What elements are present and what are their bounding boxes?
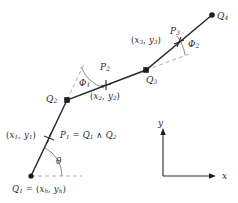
- vertex-marker-q2: [64, 97, 70, 103]
- vertex-marker-q1: [28, 173, 33, 178]
- axis-x-arrowhead: [209, 173, 216, 178]
- label-theta: θ: [56, 157, 62, 166]
- label-q1-equation: Q1 = (xh, yh): [12, 185, 66, 195]
- label-q4: Q4: [217, 12, 228, 21]
- midpoint-tick-p2: [101, 80, 111, 90]
- label-coord-xy1: (x1, y1): [6, 131, 36, 141]
- midpoint-tick-p1: [44, 133, 54, 143]
- vertex-marker-q4: [209, 12, 215, 18]
- geometry-diagram: Q4 P3 (x3, y3) Φ2 P2 Q3 Φ1 Q2 (x2, y2) (…: [0, 0, 238, 203]
- label-phi1: Φ1: [79, 79, 90, 88]
- axis-label-y: y: [158, 119, 163, 128]
- label-p2: P2: [100, 63, 110, 72]
- axis-indicator: [160, 128, 216, 179]
- axis-y-arrowhead: [160, 128, 165, 135]
- label-coord-xy2: (x2, y2): [90, 92, 120, 102]
- label-p1-equation: P1 = Q1 ∧ Q2: [60, 131, 116, 141]
- label-p3: P3: [170, 27, 180, 36]
- phi2-extension-dashed-line: [146, 53, 192, 70]
- axis-label-x: x: [222, 172, 227, 181]
- label-q3: Q3: [146, 76, 157, 85]
- vertex-marker-q3: [143, 67, 149, 73]
- label-q2: Q2: [46, 95, 57, 104]
- polyline-path: [31, 15, 212, 176]
- label-coord-xy3: (x3, y3): [131, 36, 161, 46]
- label-phi2: Φ2: [188, 40, 199, 49]
